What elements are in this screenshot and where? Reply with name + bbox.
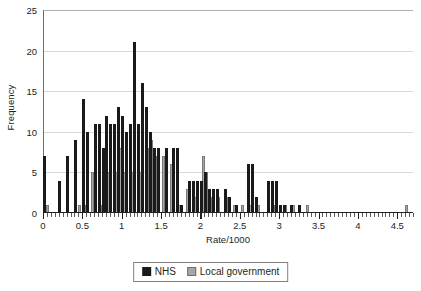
x-axis-minor-tick bbox=[165, 213, 166, 217]
x-axis-minor-tick bbox=[311, 213, 312, 217]
x-axis-tick-label: 2 bbox=[198, 220, 203, 231]
x-axis-minor-tick bbox=[299, 213, 300, 217]
bar-nhs bbox=[141, 83, 144, 213]
x-axis-minor-tick bbox=[287, 213, 288, 217]
x-axis-minor-tick bbox=[267, 213, 268, 217]
bar-nhs bbox=[212, 189, 215, 213]
x-axis-minor-tick bbox=[366, 213, 367, 217]
x-axis-minor-tick bbox=[86, 213, 87, 217]
x-axis-tick-label: 1 bbox=[119, 220, 124, 231]
x-axis-minor-tick bbox=[346, 213, 347, 217]
x-axis-minor-tick bbox=[63, 213, 64, 217]
x-axis-minor-tick bbox=[370, 213, 371, 217]
x-axis-minor-tick bbox=[94, 213, 95, 217]
x-axis-minor-tick bbox=[185, 213, 186, 217]
bar-nhs bbox=[105, 116, 108, 213]
x-axis-minor-tick bbox=[330, 213, 331, 217]
legend-swatch-local-government-icon bbox=[187, 267, 196, 276]
plot-area bbox=[43, 10, 413, 213]
y-axis-tick-label: 25 bbox=[26, 5, 37, 16]
x-axis-minor-tick bbox=[90, 213, 91, 217]
x-axis-minor-tick bbox=[59, 213, 60, 217]
bar-nhs bbox=[86, 132, 89, 213]
bar-nhs bbox=[98, 124, 101, 213]
x-axis-minor-tick bbox=[295, 213, 296, 217]
x-axis-minor-tick bbox=[232, 213, 233, 217]
legend-label-nhs: NHS bbox=[155, 266, 176, 277]
x-axis-minor-tick bbox=[67, 213, 68, 217]
x-axis-minor-tick bbox=[224, 213, 225, 217]
histogram-chart: Frequency 0510152025 00.511.522.533.544.… bbox=[0, 0, 421, 291]
x-axis-minor-tick bbox=[74, 213, 75, 217]
x-axis-minor-tick bbox=[134, 213, 135, 217]
x-axis-minor-tick bbox=[374, 213, 375, 217]
x-axis-minor-tick bbox=[137, 213, 138, 217]
bar-nhs bbox=[192, 181, 195, 213]
x-axis-minor-tick bbox=[385, 213, 386, 217]
x-axis-minor-tick bbox=[252, 213, 253, 217]
x-axis-major-tick bbox=[43, 213, 44, 219]
x-axis-minor-tick bbox=[334, 213, 335, 217]
x-axis-major-tick bbox=[358, 213, 359, 219]
bar-nhs bbox=[133, 42, 136, 213]
x-axis-major-tick bbox=[319, 213, 320, 219]
x-axis-minor-tick bbox=[271, 213, 272, 217]
x-axis-minor-tick bbox=[173, 213, 174, 217]
x-axis-minor-tick bbox=[78, 213, 79, 217]
x-axis-tick-label: 4 bbox=[355, 220, 360, 231]
x-axis-minor-tick bbox=[130, 213, 131, 217]
x-axis-minor-tick bbox=[102, 213, 103, 217]
y-axis-tick-label: 15 bbox=[26, 86, 37, 97]
y-axis-title-text: Frequency bbox=[6, 85, 17, 131]
x-axis-tick-label: 0 bbox=[40, 220, 45, 231]
x-axis-minor-tick bbox=[263, 213, 264, 217]
x-axis-minor-tick bbox=[275, 213, 276, 217]
x-axis-minor-tick bbox=[181, 213, 182, 217]
legend-entry-nhs: NHS bbox=[142, 266, 176, 277]
bar-nhs bbox=[267, 181, 270, 213]
y-axis-tick-labels: 0510152025 bbox=[18, 10, 40, 213]
x-axis-major-tick bbox=[122, 213, 123, 219]
x-axis-minor-tick bbox=[212, 213, 213, 217]
bar-nhs bbox=[94, 124, 97, 213]
x-axis-minor-tick bbox=[141, 213, 142, 217]
bar-nhs bbox=[208, 189, 211, 213]
x-axis-minor-tick bbox=[118, 213, 119, 217]
legend-entry-local-government: Local government bbox=[187, 266, 280, 277]
x-axis-major-tick bbox=[397, 213, 398, 219]
x-axis-tick-label: 1.5 bbox=[154, 220, 167, 231]
bar-nhs bbox=[157, 148, 160, 213]
bar-nhs bbox=[129, 124, 132, 213]
x-axis-minor-tick bbox=[362, 213, 363, 217]
x-axis-minor-tick bbox=[291, 213, 292, 217]
x-axis-minor-tick bbox=[350, 213, 351, 217]
bar-nhs bbox=[172, 148, 175, 213]
x-axis-major-tick bbox=[82, 213, 83, 219]
x-axis-title-text: Rate/1000 bbox=[206, 234, 250, 245]
x-axis-tick-label: 3 bbox=[277, 220, 282, 231]
y-axis-tick-label: 20 bbox=[26, 45, 37, 56]
x-axis-title: Rate/1000 bbox=[43, 234, 413, 245]
legend-swatch-nhs-icon bbox=[142, 267, 151, 276]
x-axis-minor-tick bbox=[114, 213, 115, 217]
y-axis-tick-label: 0 bbox=[32, 208, 37, 219]
bar-nhs bbox=[43, 156, 46, 213]
bar-nhs bbox=[204, 172, 207, 213]
bar-nhs bbox=[121, 116, 124, 213]
x-axis-tick-label: 2.5 bbox=[233, 220, 246, 231]
x-axis-minor-tick bbox=[193, 213, 194, 217]
x-axis-minor-tick bbox=[153, 213, 154, 217]
bar-nhs bbox=[149, 132, 152, 213]
bar-nhs bbox=[125, 132, 128, 213]
bar-nhs bbox=[82, 99, 85, 213]
bar-nhs bbox=[66, 156, 69, 213]
y-axis-tick-label: 10 bbox=[26, 126, 37, 137]
x-axis-minor-tick bbox=[216, 213, 217, 217]
x-axis-minor-tick bbox=[55, 213, 56, 217]
x-axis-minor-tick bbox=[378, 213, 379, 217]
x-axis-minor-tick bbox=[71, 213, 72, 217]
bar-nhs bbox=[188, 181, 191, 213]
x-axis-minor-tick bbox=[354, 213, 355, 217]
x-axis-minor-tick bbox=[244, 213, 245, 217]
bar-nhs bbox=[109, 124, 112, 213]
